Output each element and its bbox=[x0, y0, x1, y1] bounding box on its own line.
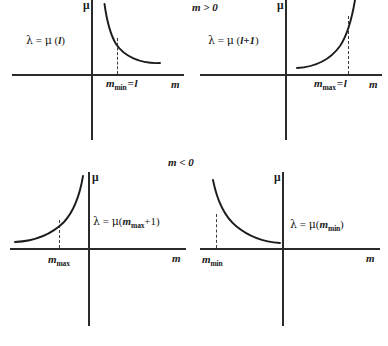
tick-label-top-right: mmax = l bbox=[314, 78, 347, 92]
annotation-bottom-left: λ = μ(mmax+1) bbox=[93, 216, 160, 230]
lambda-symbol: λ bbox=[26, 34, 33, 47]
mu-symbol: μ bbox=[112, 215, 119, 228]
x-axis-label-bottom-left: m bbox=[172, 253, 181, 264]
dashed-line-top-left bbox=[117, 38, 118, 74]
curve-top-left bbox=[0, 0, 194, 140]
figure-canvas: m > 0 μ m mmin = l λ = μ (l) μ m bbox=[0, 0, 388, 346]
tick-sub: max bbox=[323, 83, 336, 92]
x-axis-label-top-right: m bbox=[369, 79, 378, 90]
x-axis-label-top-left: m bbox=[171, 79, 180, 90]
tick-sym: m bbox=[106, 77, 115, 89]
curve-top-right bbox=[194, 0, 388, 140]
y-axis-label-bottom-right: μ bbox=[274, 172, 281, 184]
y-axis-bottom-left bbox=[88, 172, 90, 326]
panel-top-left: μ m mmin = l λ = μ (l) bbox=[0, 0, 194, 140]
tick-eq: = bbox=[127, 77, 133, 89]
lambda-symbol: λ bbox=[208, 34, 215, 47]
panel-top-right: μ m mmax = l λ = μ (l+1) bbox=[194, 0, 388, 140]
y-axis-top-left bbox=[91, 0, 93, 140]
annotation-arg: l bbox=[58, 34, 61, 46]
tick-rhs: l bbox=[135, 77, 138, 89]
equals-symbol: = bbox=[36, 34, 42, 46]
mu-symbol: μ bbox=[227, 34, 234, 47]
y-axis-label-bottom-left: μ bbox=[92, 172, 99, 184]
tick-rhs: l bbox=[344, 77, 347, 89]
mu-symbol: μ bbox=[45, 34, 52, 47]
mu-symbol: μ bbox=[309, 218, 316, 231]
annotation-arg-sym: m bbox=[320, 218, 329, 230]
panel-bottom-left: μ m mmax λ = μ(mmax+1) bbox=[0, 172, 194, 327]
tick-sym: m bbox=[202, 253, 211, 265]
tick-sub: max bbox=[57, 259, 70, 268]
tick-sub: min bbox=[211, 259, 223, 268]
y-axis-bottom-right bbox=[282, 172, 284, 326]
tick-sub: min bbox=[115, 83, 127, 92]
annotation-arg: l+1 bbox=[240, 34, 255, 46]
x-axis-top-right bbox=[200, 74, 382, 76]
annotation-arg-tail: +1 bbox=[144, 215, 156, 227]
equals-symbol: = bbox=[218, 34, 224, 46]
tick-label-top-left: mmin = l bbox=[106, 78, 138, 92]
annotation-arg-sub: max bbox=[131, 221, 144, 230]
annotation-top-right: λ = μ (l+1) bbox=[208, 35, 259, 46]
x-axis-label-bottom-right: m bbox=[366, 253, 375, 264]
dashed-line-bottom-right bbox=[216, 214, 217, 248]
y-axis-top-right bbox=[285, 0, 287, 140]
row-header-m-negative: m < 0 bbox=[168, 157, 194, 168]
tick-label-bottom-left: mmax bbox=[48, 254, 70, 268]
y-axis-label-top-left: μ bbox=[83, 0, 90, 12]
annotation-arg-sym: m bbox=[123, 215, 132, 227]
lambda-symbol: λ bbox=[93, 215, 100, 228]
dashed-line-bottom-left bbox=[59, 220, 60, 248]
y-axis-label-top-right: μ bbox=[277, 0, 284, 12]
dashed-line-top-right bbox=[348, 16, 349, 74]
annotation-top-left: λ = μ (l) bbox=[26, 35, 65, 46]
equals-symbol: = bbox=[103, 215, 109, 227]
panel-bottom-right: μ m mmin λ = μ(mmin) bbox=[194, 172, 388, 327]
tick-sym: m bbox=[48, 253, 57, 265]
equals-symbol: = bbox=[300, 218, 306, 230]
tick-sym: m bbox=[314, 77, 323, 89]
row-header-m-negative-text: m < 0 bbox=[168, 156, 194, 168]
tick-eq: = bbox=[337, 77, 343, 89]
annotation-bottom-right: λ = μ(mmin) bbox=[290, 219, 344, 233]
tick-label-bottom-right: mmin bbox=[202, 254, 222, 268]
x-axis-top-left bbox=[12, 74, 184, 76]
x-axis-bottom-right bbox=[200, 248, 380, 250]
x-axis-bottom-left bbox=[10, 248, 186, 250]
annotation-arg-sub: min bbox=[328, 224, 340, 233]
lambda-symbol: λ bbox=[290, 218, 297, 231]
